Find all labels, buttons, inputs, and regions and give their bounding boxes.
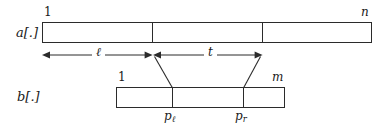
position-pr-label: pr <box>235 110 247 123</box>
array-b-end-label: m <box>272 71 283 83</box>
diagram-canvas <box>0 0 387 126</box>
measure-l-arrowhead-left <box>42 52 50 59</box>
position-pl-subscript: ℓ <box>172 114 176 124</box>
array-a-box <box>43 23 372 43</box>
connector-right-line <box>244 57 261 89</box>
array-a-end-label: n <box>361 6 369 18</box>
array-matching-diagram: a[.] 1 n ℓ t b[.] 1 m pℓ pr <box>0 0 387 126</box>
position-pr-subscript: r <box>243 114 247 124</box>
connector-left-line <box>155 57 173 89</box>
position-pr-base: p <box>235 109 243 123</box>
measure-t-arrowhead-left <box>153 52 161 59</box>
measure-t-arrowhead-right <box>255 52 263 59</box>
array-a-start-label: 1 <box>44 6 52 18</box>
array-a-name-label: a[.] <box>16 26 38 39</box>
position-pl-label: pℓ <box>164 110 175 123</box>
measure-l-arrowhead-right <box>145 52 153 59</box>
position-pl-base: p <box>164 109 172 123</box>
array-b-start-label: 1 <box>118 71 126 83</box>
measure-l-label: ℓ <box>92 46 105 58</box>
array-b-name-label: b[.] <box>17 90 40 103</box>
array-b-box <box>117 88 285 108</box>
measure-t-label: t <box>204 46 217 58</box>
